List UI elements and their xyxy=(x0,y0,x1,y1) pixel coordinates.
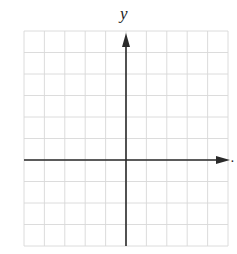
coordinate-plane xyxy=(0,0,237,254)
y-axis-label: y xyxy=(120,4,128,24)
y-axis-arrow-icon xyxy=(122,33,130,47)
x-axis-label: . xyxy=(231,150,235,166)
